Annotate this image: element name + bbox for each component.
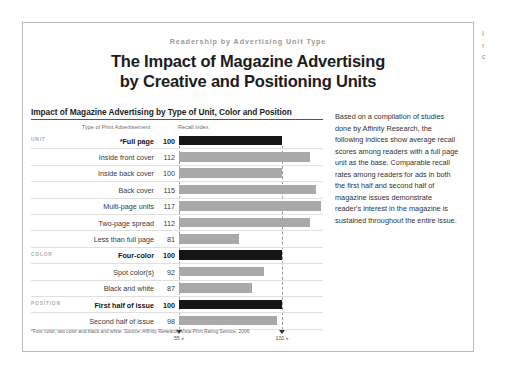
bar-track [179, 136, 323, 146]
row-label: Inside back cover [51, 169, 154, 178]
bar-track [179, 250, 323, 260]
row-value: 100 [157, 251, 175, 260]
row-label: Four-color [51, 251, 154, 260]
bar [179, 267, 264, 277]
row-value: 115 [157, 186, 175, 195]
bar-track [179, 234, 323, 244]
bar [179, 185, 316, 195]
row-value: 100 [157, 169, 175, 178]
row-label: *Full page [51, 137, 154, 146]
commentary-paragraph: Based on a compilation of studies done b… [335, 111, 459, 226]
table-row: UNIT*Full page100 [31, 133, 323, 149]
bar-track [179, 218, 323, 228]
table-row: Two-page spread112 [31, 215, 323, 231]
table-row: Second half of issue98 [31, 313, 323, 329]
column-header-category: Type of Print Advertisement [61, 124, 171, 130]
table-row: Inside front cover112 [31, 149, 323, 165]
axis-tick-1: 100 » [282, 330, 285, 334]
bar-track [179, 168, 323, 178]
row-label: Spot color(s) [51, 268, 154, 277]
row-label: Multi-page units [51, 202, 154, 211]
table-row: Spot color(s)92 [31, 264, 323, 280]
chart-rows: UNIT*Full page100Inside front cover112In… [31, 133, 323, 330]
bar [179, 168, 282, 178]
row-label: First half of issue [51, 301, 154, 310]
bar-track [179, 316, 323, 326]
column-header-value: Recall index [178, 124, 208, 130]
bar [179, 201, 321, 211]
table-row: Black and white87 [31, 281, 323, 297]
bar [179, 316, 277, 326]
row-value: 98 [157, 317, 175, 326]
table-row: POSITIONFirst half of issue100 [31, 297, 323, 313]
bar-track [179, 300, 323, 310]
row-value: 87 [157, 284, 175, 293]
bar [179, 250, 282, 260]
bar [179, 234, 239, 244]
bar-track [179, 283, 323, 293]
row-label: Two-page spread [51, 219, 154, 228]
row-label: Inside front cover [51, 153, 154, 162]
bar-track [179, 185, 323, 195]
row-value: 117 [157, 202, 175, 211]
table-row: Multi-page units117 [31, 199, 323, 215]
row-value: 112 [157, 219, 175, 228]
bar-track [179, 267, 323, 277]
content-area: Impact of Magazine Advertising by Type o… [23, 107, 473, 351]
row-group-label: UNIT [31, 137, 46, 142]
bar [179, 136, 282, 146]
edge-bleed-line-1: I [482, 28, 506, 40]
document-page: Readership by Advertising Unit Type The … [22, 22, 474, 352]
chart-footnote: *Four color, two color and black and whi… [31, 329, 249, 334]
chart-panel: Impact of Magazine Advertising by Type o… [31, 107, 323, 348]
edge-bleed-line-2: r [482, 40, 506, 52]
table-row: COLORFour-color100 [31, 248, 323, 264]
row-value: 81 [157, 235, 175, 244]
bar [179, 300, 282, 310]
table-row: Back cover115 [31, 182, 323, 198]
row-group-label: COLOR [31, 252, 53, 257]
document-header: Readership by Advertising Unit Type The … [23, 23, 473, 91]
axis-tick-label: 100 » [271, 335, 293, 341]
table-row: Inside back cover100 [31, 166, 323, 182]
edge-bleed-text: I r c [482, 28, 506, 63]
row-label: Black and white [51, 284, 154, 293]
eyebrow-label: Readership by Advertising Unit Type [23, 37, 473, 46]
chart-column-headers: Type of Print Advertisement Recall index [31, 120, 323, 133]
row-value: 112 [157, 153, 175, 162]
row-label: Second half of issue [51, 317, 154, 326]
row-value: 92 [157, 268, 175, 277]
table-row: Less than full page81 [31, 231, 323, 247]
page-title: The Impact of Magazine Advertising by Cr… [23, 51, 473, 91]
bar-track [179, 201, 323, 211]
chart-heading: Impact of Magazine Advertising by Type o… [31, 107, 323, 120]
bar [179, 283, 252, 293]
bar [179, 218, 310, 228]
row-value: 100 [157, 301, 175, 310]
row-label: Less than full page [51, 235, 154, 244]
row-value: 100 [157, 137, 175, 146]
page-title-line-1: The Impact of Magazine Advertising [23, 51, 473, 71]
bar [179, 152, 310, 162]
axis-caret-icon [279, 330, 285, 334]
edge-bleed-line-3: c [482, 51, 506, 63]
bar-track [179, 152, 323, 162]
page-title-line-2: by Creative and Positioning Units [23, 71, 473, 91]
axis-tick-label: 55 » [168, 335, 190, 341]
row-label: Back cover [51, 186, 154, 195]
